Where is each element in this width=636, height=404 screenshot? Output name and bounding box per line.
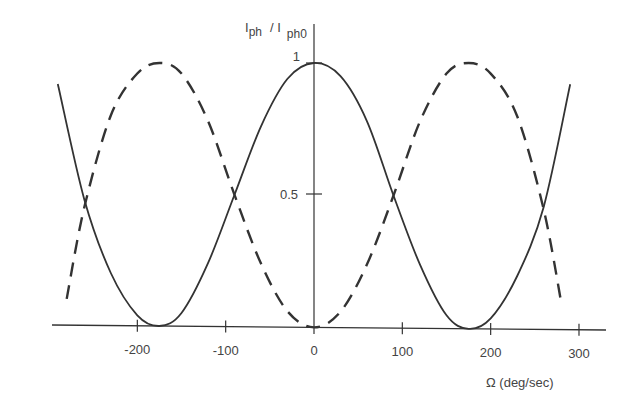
x-tick-label: 300 (568, 346, 590, 361)
x-tick-label: 0 (310, 343, 317, 358)
x-tick-label: 100 (391, 344, 413, 359)
x-tick-label: -100 (213, 343, 239, 358)
y-tick-label: 1 (293, 49, 300, 64)
y-ticks: 0.51 (280, 49, 322, 202)
x-tick-label: 200 (480, 345, 502, 360)
y-axis-label: Iph/ Iph0 (245, 20, 307, 41)
x-axis-label: Ω (deg/sec) (486, 375, 554, 390)
x-tick-label: -200 (124, 342, 150, 357)
y-tick-label: 0.5 (280, 187, 298, 202)
chart: -200-1000100200300 0.51 Iph/ Iph0 Ω (deg… (0, 0, 636, 404)
x-axis (52, 325, 606, 330)
